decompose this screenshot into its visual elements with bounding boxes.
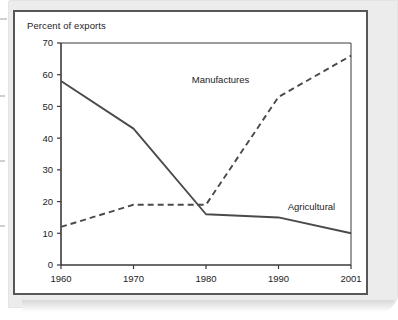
series-label-manufactures: Manufactures <box>192 74 250 85</box>
x-axis-tick-label: 1970 <box>123 273 144 284</box>
x-axis-tick-label: 1980 <box>195 273 216 284</box>
margin-mark <box>0 225 5 227</box>
y-axis-tick-label: 60 <box>42 69 53 80</box>
x-axis-tick-label: 1960 <box>50 273 71 284</box>
y-axis-tick-label: 30 <box>42 164 53 175</box>
line-chart: 01020304050607019601970198019902001Agric… <box>15 12 370 297</box>
sheet-shadow <box>22 300 394 312</box>
plot-area: 01020304050607019601970198019902001Agric… <box>15 12 370 297</box>
margin-mark <box>0 18 7 20</box>
x-axis-tick-label: 1990 <box>268 273 289 284</box>
y-axis-tick-label: 10 <box>42 228 53 239</box>
page-root: Percent of exports 010203040506070196019… <box>0 0 398 320</box>
margin-mark <box>0 95 5 97</box>
y-axis-tick-label: 50 <box>42 101 53 112</box>
x-axis-tick-label: 2001 <box>340 273 361 284</box>
margin-mark <box>0 160 5 162</box>
y-axis-tick-label: 0 <box>48 259 53 270</box>
figure-card: Percent of exports 010203040506070196019… <box>13 10 368 295</box>
y-axis-tick-label: 40 <box>42 133 53 144</box>
y-axis-tick-label: 70 <box>42 37 53 48</box>
series-label-agricultural: Agricultural <box>288 201 336 212</box>
y-axis-tick-label: 20 <box>42 196 53 207</box>
